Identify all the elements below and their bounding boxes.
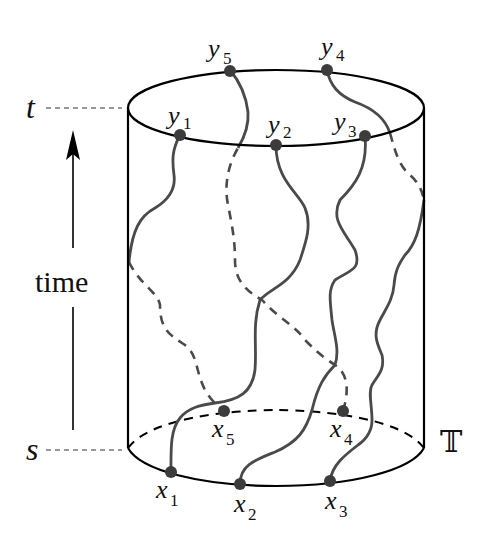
svg-text:y: y — [318, 32, 333, 61]
svg-text:y: y — [205, 34, 220, 63]
svg-text:y: y — [331, 107, 346, 136]
svg-text:4: 4 — [336, 46, 345, 65]
path-x3-y4-hidden — [390, 133, 424, 200]
label-y1: y 1 — [165, 101, 192, 133]
svg-text:4: 4 — [344, 430, 353, 449]
point-y4 — [321, 64, 333, 76]
svg-text:y: y — [265, 110, 280, 139]
label-x5: x 5 — [211, 414, 235, 449]
point-y2 — [270, 139, 282, 151]
svg-text:3: 3 — [348, 122, 357, 141]
path-x4-y5-visible — [230, 70, 248, 148]
label-y4: y 4 — [318, 32, 345, 65]
svg-text:x: x — [233, 489, 246, 518]
svg-text:1: 1 — [170, 491, 179, 510]
s-label: s — [26, 431, 38, 467]
svg-text:2: 2 — [283, 123, 292, 142]
label-x3: x 3 — [324, 486, 348, 521]
svg-text:5: 5 — [223, 49, 232, 68]
path-x5-y1-hidden — [129, 262, 224, 411]
point-y3 — [359, 130, 371, 142]
label-x4: x 4 — [329, 414, 353, 449]
path-x1-y2 — [171, 145, 308, 472]
label-y3: y 3 — [331, 107, 357, 141]
label-x1: x 1 — [155, 475, 179, 510]
svg-text:2: 2 — [248, 505, 257, 524]
label-y5: y 5 — [205, 34, 232, 68]
label-x2: x 2 — [233, 489, 257, 524]
svg-text:x: x — [324, 486, 337, 515]
svg-text:y: y — [165, 101, 180, 130]
time-label: time — [35, 265, 88, 298]
svg-text:x: x — [329, 414, 342, 443]
svg-text:x: x — [155, 475, 168, 504]
t-label: t — [26, 89, 36, 125]
path-x5-y1-visible — [129, 135, 180, 262]
cylinder-diagram: t s time 𝕋 y 1 y 2 y 3 y 4 y 5 x 1 x 2 x… — [0, 0, 488, 544]
svg-text:1: 1 — [183, 114, 192, 133]
svg-text:x: x — [211, 414, 224, 443]
label-y2: y 2 — [265, 110, 292, 142]
svg-text:3: 3 — [339, 502, 348, 521]
torus-space-label: 𝕋 — [440, 425, 463, 458]
svg-text:5: 5 — [226, 430, 235, 449]
